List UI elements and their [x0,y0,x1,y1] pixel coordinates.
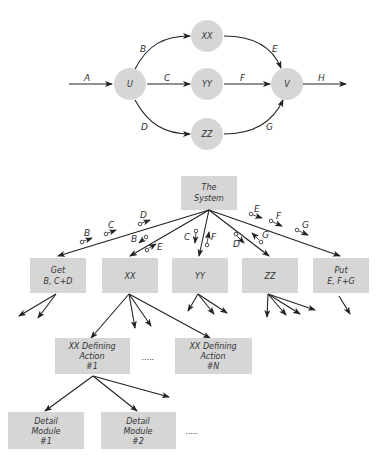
node-u-label: U [127,80,133,89]
box-action1-line3: #1 [86,362,98,371]
box-detail2-line3: #2 [132,437,144,446]
node-yy-label: YY [202,80,213,89]
couple-label-put-e: E [254,204,260,214]
box-action1-line2: Action [78,352,104,361]
edge-label-f: F [240,73,246,83]
box-detail-module-2: Detail Module #2 [101,412,176,449]
box-the-system-line1: The [202,183,217,192]
box-actionN-line1: XX Defining [188,342,236,351]
node-zz-label: ZZ [201,130,213,139]
box-detail1-line2: Module [31,427,60,436]
edge-root-yy [199,210,209,256]
edge-label-b: B [140,44,146,54]
box-put-line1: Put [334,266,348,275]
edge-action1-more [93,376,169,397]
box-get-line2: B, C+D [43,277,72,286]
box-put: Put E, F+G [313,258,369,293]
node-xx-label: XX [201,32,213,41]
stub-arrows [19,294,350,328]
flow-diagram: A B C D E F G H U XX YY ZZ V [69,20,346,150]
ellipsis-level3: ..... [186,427,199,436]
couple-label-yy-c: C [184,232,191,242]
box-xx-defining-action-1: XX Defining Action #1 [55,338,130,374]
couple-label-zz-d: D [233,239,240,249]
box-yy: YY [172,258,228,293]
couple-label-xx-e: E [157,242,163,252]
edge-label-g: G [266,122,273,132]
couple-label-put-g: G [302,220,309,230]
couple-label-xx-b: B [131,234,137,244]
couple-label-yy-f: F [211,232,217,242]
box-detail-module-1: Detail Module #1 [8,412,84,449]
couple-label-get-c: C [108,220,115,230]
couple-label-get-d: D [140,210,147,220]
node-v-label: V [284,80,290,89]
data-couple-labels: B C D B E C F D G E F G [84,204,309,252]
couple-label-get-b: B [84,228,90,238]
box-detail2-line1: Detail [126,417,150,426]
edge-action1-detail1 [45,376,93,411]
edge-root-zz [209,210,269,256]
ellipsis-level2: ..... [142,353,155,362]
box-get: Get B, C+D [30,258,86,293]
box-xx: XX [102,258,158,293]
box-put-line2: E, F+G [327,277,355,286]
box-the-system-line2: System [194,194,224,203]
node-zz: ZZ [191,118,223,150]
edge-label-e: E [272,44,278,54]
edge-xx-action1 [91,294,129,338]
node-v: V [271,68,303,100]
box-xx-defining-action-n: XX Defining Action #N [175,338,252,374]
edge-label-h: H [318,73,325,83]
box-zz-line1: ZZ [264,272,276,281]
box-detail1-line3: #1 [40,437,52,446]
edge-label-c: C [164,73,171,83]
edge-xx-actionN [129,294,210,338]
box-detail1-line1: Detail [34,417,58,426]
edge-root-put [209,210,340,256]
box-the-system: The System [181,176,237,210]
box-actionN-line3: #N [207,362,220,371]
edge-g [224,100,283,134]
box-actionN-line2: Action [199,352,225,361]
edge-label-d: D [141,122,148,132]
box-xx-line1: XX [124,272,136,281]
node-yy: YY [191,68,223,100]
couple-label-zz-g: G [262,230,269,240]
box-yy-line1: YY [195,272,206,281]
box-detail2-line2: Module [123,427,152,436]
box-get-line1: Get [51,266,66,275]
edge-action1-detail2 [93,376,137,411]
couple-label-put-f: F [276,211,282,221]
node-xx: XX [191,20,223,52]
node-u: U [114,68,146,100]
box-zz: ZZ [242,258,298,293]
diagram-canvas: A B C D E F G H U XX YY ZZ V [0,0,382,460]
box-action1-line1: XX Defining [67,342,115,351]
structure-chart: The System B C D B E [8,176,369,449]
edge-label-a: A [83,73,90,83]
